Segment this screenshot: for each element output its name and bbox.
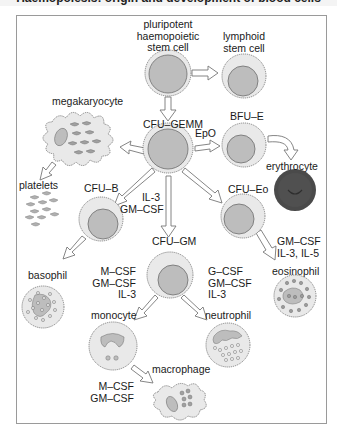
label-erythrocyte: erythrocyte [266,161,318,173]
macrophage-cell [153,383,206,420]
arrow-cfugemm-to-bfue [195,140,220,152]
label-factors-gemm-to-gm: IL-3 GM–CSF [120,192,160,215]
basophil-cell [22,286,64,328]
factor-il3-mono: IL-3 [92,289,136,301]
arrow-cfueo-to-eosinophil [256,230,276,260]
bfu-e-cell [222,123,266,167]
label-lymphoid-line2: stem cell [214,43,274,55]
label-epo: EpO [195,128,216,140]
label-factors-eo: GM–CSF IL-3, IL-5 [277,236,321,259]
arrow-pluripotent-to-lymphoid [192,66,218,80]
cfu-gm-cell [147,252,193,298]
arrow-cfugemm-to-cfueo [182,168,222,203]
label-lymphoid: lymphoid stem cell [214,31,274,54]
eosinophil-cell [274,275,316,317]
label-megakaryocyte: megakaryocyte [52,96,123,108]
label-pluripotent: pluripotent haemopoietic stem cell [128,19,208,54]
arrow-monocyte-to-macrophage [131,365,153,383]
factor-mcsf: M–CSF [92,266,136,278]
label-macrophage: macrophage [152,364,210,376]
arrow-megakaryocyte-to-platelets [40,162,56,180]
label-monocyte: monocyte [91,310,137,322]
pluripotent-stem-cell [145,50,191,96]
label-cfu-b: CFU–B [84,183,118,195]
cfu-gemm-cell [143,123,193,173]
factor-il3-neut: IL-3 [208,289,252,301]
label-eosinophil: eosinophil [272,266,319,278]
factor-il3: IL-3 [120,192,160,204]
factor-gmcsf: GM–CSF [120,204,160,216]
arrow-cfugm-to-monocyte [134,295,158,320]
label-lymphoid-line1: lymphoid [214,31,274,43]
platelets-cluster [25,192,59,227]
cfu-eo-cell [221,194,265,238]
factor-mcsf-mac: M–CSF [90,381,134,393]
cfu-b-cell [79,197,123,241]
factor-il3-il5: IL-3, IL-5 [277,248,321,260]
arrow-cfugemm-to-megakaryocyte [120,141,145,154]
label-factors-gm-to-monocyte: M–CSF GM–CSF IL-3 [92,266,136,301]
label-basophil: basophil [28,270,67,282]
label-bfu-e: BFU–E [230,111,264,123]
monocyte-cell [89,322,137,370]
arrow-cfub-to-basophil [63,236,86,259]
erythrocyte-cell [274,169,316,211]
label-pluripotent-line1: pluripotent [128,19,208,31]
label-factors-macrophage: M–CSF GM–CSF [90,381,134,404]
label-platelets: platelets [19,180,58,192]
label-cfu-eo: CFU–Eo [228,184,268,196]
factor-gmcsf-eo: GM–CSF [277,236,321,248]
label-cfu-gm: CFU–GM [152,236,196,248]
neutrophil-cell [206,323,250,367]
factor-gcsf: G–CSF [208,266,252,278]
arrow-cfugm-to-neutrophil [181,295,207,320]
factor-gmcsf-mac: GM–CSF [90,393,134,405]
label-neutrophil: neutrophil [205,310,251,322]
label-pluripotent-line3: stem cell [128,42,208,54]
megakaryocyte-cell [43,112,113,165]
lymphoid-stem-cell [222,54,266,98]
label-factors-gm-to-neutrophil: G–CSF GM–CSF IL-3 [208,266,252,301]
arrow-bfue-to-erythrocyte [268,136,298,160]
